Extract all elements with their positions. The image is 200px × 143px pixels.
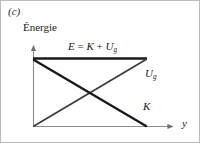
potential-symbol: U [145, 67, 153, 79]
plot-area [1, 1, 200, 143]
kinetic-energy-curve-label: K [143, 101, 150, 112]
equation-lhs: E [68, 40, 75, 52]
equation-kinetic: K [86, 40, 93, 52]
energy-diagram-figure: (c) Énergie E = K + Ug Ug K y [0, 0, 200, 143]
horizontal-axis-label: y [182, 118, 187, 129]
potential-energy-curve-label: Ug [145, 68, 157, 81]
equation-plus: + [94, 40, 106, 52]
potential-subscript: g [153, 73, 157, 81]
kinetic-symbol: K [143, 100, 150, 112]
equation-potential-subscript: g [113, 46, 117, 54]
equation-equals: = [75, 40, 87, 52]
total-energy-equation-label: E = K + Ug [68, 41, 117, 54]
